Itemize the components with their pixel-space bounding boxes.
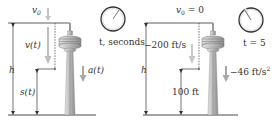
free-fall-diagram: h s(t) v0 v(t) a(t) t, seconds h	[0, 0, 276, 126]
initial-velocity-arrow	[45, 8, 51, 21]
panel-specific: h 100 ft v0 = 0 −200 ft/s −46 ft/s2 t = …	[141, 5, 270, 115]
acceleration-label: −46 ft/s2	[230, 65, 270, 77]
acceleration-arrow	[223, 66, 230, 82]
panel-general: h s(t) v0 v(t) a(t) t, seconds	[8, 5, 145, 115]
tower-icon	[202, 23, 224, 115]
tower-icon	[59, 23, 81, 115]
velocity-arrow	[189, 44, 196, 64]
acceleration-arrow	[80, 66, 87, 82]
height-label: h	[141, 65, 147, 75]
clock-icon	[239, 8, 263, 32]
position-label: s(t)	[20, 87, 36, 97]
clock-label: t, seconds	[99, 37, 145, 47]
velocity-label: v(t)	[25, 40, 41, 50]
clock-icon	[101, 7, 125, 31]
position-label: 100 ft	[172, 87, 199, 97]
v0-label: v0	[32, 5, 41, 16]
v0-label: v0 = 0	[176, 5, 204, 16]
velocity-label: −200 ft/s	[144, 40, 187, 50]
height-label: h	[9, 65, 15, 75]
velocity-arrow	[45, 27, 52, 64]
clock-label: t = 5	[243, 38, 266, 48]
acceleration-label: a(t)	[88, 65, 104, 75]
